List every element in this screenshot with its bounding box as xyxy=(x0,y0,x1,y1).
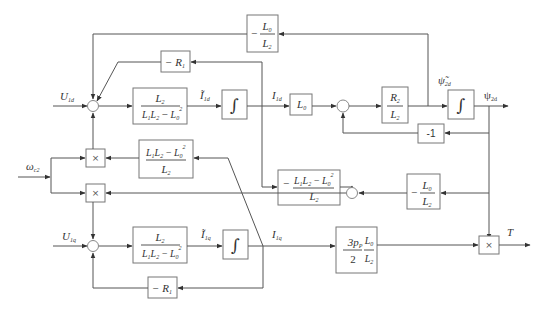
integral-icon: ∫ xyxy=(230,95,239,115)
psi2d-label: ψ2d xyxy=(484,89,497,102)
omega-label: ωc2 xyxy=(26,160,39,173)
sum-junction-d xyxy=(88,101,99,112)
cross-gain-num: L1L2−L02 xyxy=(145,144,185,159)
integral-icon: ∫ xyxy=(231,235,240,255)
i1q-tilde-label: Ĩ1q xyxy=(200,228,211,241)
neg-sign: − xyxy=(283,177,289,189)
neg-cross-gain-num: L1L2−L02 xyxy=(293,172,333,187)
minus-one-label: -1 xyxy=(427,128,436,139)
neg-sign: − xyxy=(411,186,417,198)
neg-sign: − xyxy=(251,27,257,39)
line-i1q-to-neg-r1 xyxy=(178,246,263,288)
multiply-icon: × xyxy=(92,188,100,198)
torque-gain-den-a: 2 xyxy=(350,253,356,265)
gain-q-den: L1L2−L02 xyxy=(141,245,181,260)
line-i1d-to-neg-cross xyxy=(262,106,277,187)
integral-icon: ∫ xyxy=(457,95,466,115)
multiply-icon: × xyxy=(485,240,493,250)
sum-junction-q xyxy=(88,241,99,252)
u1q-label: U1q xyxy=(62,230,76,243)
u1d-label: U1d xyxy=(60,90,75,103)
i1d-tilde-label: Ĩ1d xyxy=(199,89,211,102)
gain-d-den: L1L2−L02 xyxy=(141,106,182,121)
multiply-icon: × xyxy=(92,153,100,163)
psi2d-tilde-label: ψ̃2d xyxy=(438,74,452,87)
sum-junction-cross xyxy=(347,188,358,199)
line-neg-cross-to-sum3 xyxy=(340,186,352,187)
sum-junction-flux xyxy=(337,100,349,112)
torque-label: T xyxy=(507,226,514,238)
block-diagram: U1d L2 L1L2−L02 Ĩ1d ∫ I1d L0 R2 L2 ψ̃2d … xyxy=(0,0,548,311)
i1q-label: I1q xyxy=(271,228,282,241)
i1d-label: I1d xyxy=(271,89,283,102)
